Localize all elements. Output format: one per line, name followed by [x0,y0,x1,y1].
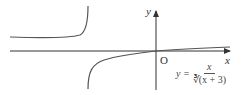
y-axis-label: y [146,6,151,17]
function-formula: y = x ∛(x + 3) [176,62,226,85]
formula-numerator: x [204,62,214,74]
formula-fraction: x ∛(x + 3) [193,62,226,85]
origin-label: O [160,55,168,66]
formula-lhs: y = [176,68,190,79]
curve-left-branch [10,6,88,38]
formula-denominator: ∛(x + 3) [193,74,226,85]
